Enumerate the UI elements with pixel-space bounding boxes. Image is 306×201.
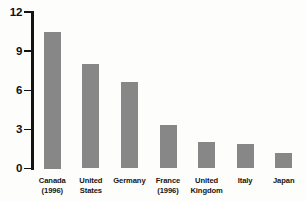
bar-chart: 036912 Canada(1996)UnitedStatesGermanyFr… [0, 0, 306, 201]
y-tick-label: 9 [0, 46, 22, 57]
bar-united-states [82, 64, 99, 168]
y-axis-tick [24, 129, 31, 131]
category-label-line: Kingdom [183, 186, 230, 196]
bar-united-kingdom [198, 142, 215, 168]
bar-france-1996 [160, 125, 177, 168]
y-tick-label: 0 [0, 163, 22, 174]
bar-canada-1996 [44, 32, 61, 169]
category-label: Japan [260, 176, 306, 186]
bar-japan [275, 153, 292, 169]
y-tick-label: 3 [0, 124, 22, 135]
bar-germany [121, 82, 138, 168]
y-axis-tick [24, 11, 31, 13]
y-tick-label: 12 [0, 7, 22, 18]
y-axis-tick [24, 50, 31, 52]
y-axis-tick [24, 168, 31, 170]
y-tick-label: 6 [0, 85, 22, 96]
y-axis-line [31, 11, 34, 170]
bar-italy [237, 144, 254, 169]
category-label-line: Japan [260, 176, 306, 186]
y-axis-tick [24, 90, 31, 92]
category-label-line: States [68, 186, 115, 196]
